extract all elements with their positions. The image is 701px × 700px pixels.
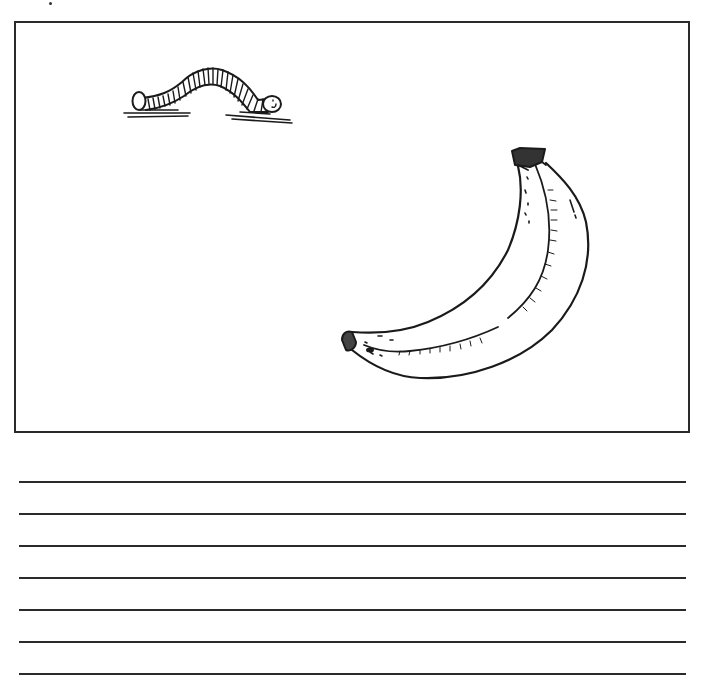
writing-line-7: [19, 673, 686, 675]
illustrations: [0, 0, 701, 440]
writing-line-2: [19, 513, 686, 515]
worm-drawing: [124, 68, 292, 123]
writing-line-3: [19, 545, 686, 547]
writing-line-4: [19, 577, 686, 579]
banana-drawing: [342, 148, 588, 378]
writing-line-6: [19, 641, 686, 643]
writing-line-5: [19, 609, 686, 611]
writing-line-1: [19, 481, 686, 483]
